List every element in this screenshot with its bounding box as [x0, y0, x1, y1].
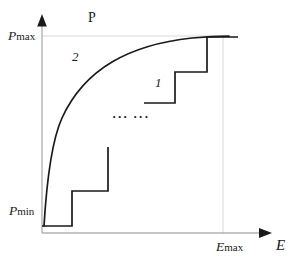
staircase-1-upper: [144, 37, 238, 103]
gridlines: [42, 36, 229, 234]
x-axis-arrowhead: [259, 228, 272, 238]
curve-label-2: 2: [72, 50, 79, 63]
y-tick-label-pmin: Pmin: [9, 204, 34, 218]
x-tick-label-emax: Emax: [216, 240, 243, 254]
y-axis-title: P: [88, 11, 96, 25]
y-tick-label-pmax: Pmax: [8, 29, 35, 43]
chart-canvas: [0, 0, 297, 270]
pmax-subscript: max: [16, 30, 35, 42]
pmax-base: P: [8, 28, 16, 43]
staircase-1-lower: [42, 147, 108, 226]
pmin-base: P: [9, 203, 17, 218]
ellipsis-marker: ··· ···: [112, 110, 150, 123]
pmin-subscript: min: [17, 205, 34, 217]
curve-label-1: 1: [155, 76, 162, 89]
y-axis-arrowhead: [37, 14, 47, 27]
emax-subscript: max: [224, 241, 243, 253]
figure-root: P Pmax Pmin Emax E 2 1 ··· ···: [0, 0, 297, 270]
emax-base: E: [216, 239, 224, 254]
x-axis-title: E: [276, 238, 285, 253]
